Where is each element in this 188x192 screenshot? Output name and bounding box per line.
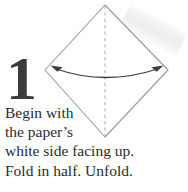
caption-line: Fold in half. Unfold. <box>5 161 185 180</box>
step-number: 1 <box>6 47 37 109</box>
caption-line: the paper’s <box>5 122 185 141</box>
instruction-caption: Begin with the paper’s white side facing… <box>5 103 185 180</box>
caption-line: white side facing up. <box>5 141 185 160</box>
origami-instruction-figure: 1 Begin with the paper’s white side faci… <box>0 0 188 192</box>
caption-line: Begin with <box>5 103 185 122</box>
